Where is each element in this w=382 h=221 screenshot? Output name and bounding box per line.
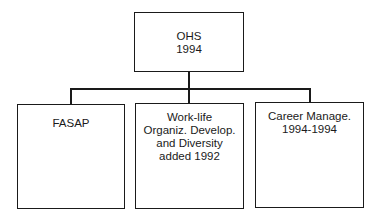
child-node-worklife: Work-life Organiz. Develop. and Diversit… xyxy=(135,103,244,209)
connector-root-down xyxy=(188,71,190,89)
connector-middle-down xyxy=(188,88,190,103)
child-line-1: Work-life xyxy=(136,111,243,124)
child-line-2: 1994-1994 xyxy=(256,123,363,136)
connector-horizontal xyxy=(70,88,310,90)
child-node-fasap: FASAP xyxy=(17,104,125,209)
child-line-2: Organiz. Develop. xyxy=(136,124,243,137)
child-line-4: added 1992 xyxy=(136,150,243,163)
child-node-career: Career Manage. 1994-1994 xyxy=(255,102,364,208)
child-line-3: and Diversity xyxy=(136,137,243,150)
child-line-1: Career Manage. xyxy=(256,110,363,123)
child-label: FASAP xyxy=(18,117,124,130)
root-label: OHS xyxy=(135,30,243,43)
root-node-ohs: OHS 1994 xyxy=(134,12,244,72)
root-year: 1994 xyxy=(135,43,243,56)
connector-right-down xyxy=(309,88,311,103)
connector-left-down xyxy=(70,88,72,104)
